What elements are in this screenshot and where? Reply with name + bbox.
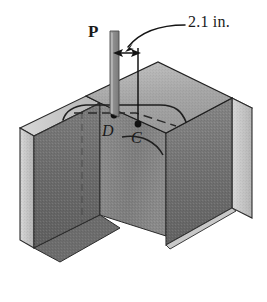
curved-leader-arrow-icon [128,25,185,47]
load-bar-group [110,31,119,117]
beam-diagram-svg [0,0,267,302]
load-label-P: P [88,22,98,42]
point-label-C: C [131,129,142,147]
point-label-D: D [102,122,114,140]
beam-figure: P 2.1 in. D C [0,0,267,302]
dimension-label: 2.1 in. [188,13,230,31]
